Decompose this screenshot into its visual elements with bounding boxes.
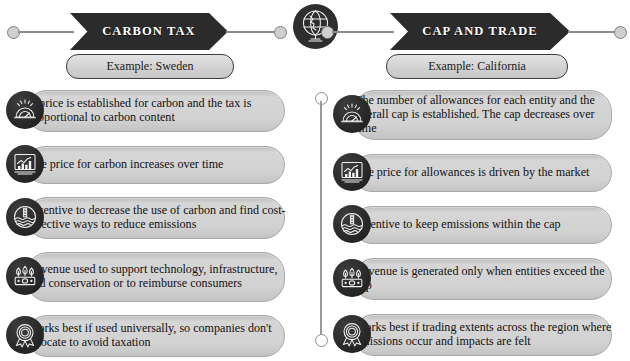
table-row[interactable]: The number of allowances for each entity… <box>327 88 630 140</box>
row-text: Revenue used to support technology, infr… <box>28 262 289 290</box>
banner-cap-and-trade[interactable]: CAP AND TRADE <box>390 13 570 50</box>
table-row[interactable]: A price is established for carbon and th… <box>0 88 303 132</box>
row-text: The price for carbon increases over time <box>28 157 289 171</box>
row-text: Works best if used universally, so compa… <box>28 321 289 349</box>
thermometer-water-icon <box>333 205 371 243</box>
example-label: Example: California <box>428 59 526 74</box>
award-ribbon-icon <box>6 316 44 354</box>
example-pill-sweden[interactable]: Example: Sweden <box>66 54 234 79</box>
example-pill-california[interactable]: Example: California <box>386 54 568 79</box>
connector-line-left-end <box>226 31 276 33</box>
gauge-icon <box>333 95 371 133</box>
table-row[interactable]: Works best if used universally, so compa… <box>0 313 303 357</box>
example-label: Example: Sweden <box>107 59 194 74</box>
connector-dot-left-end <box>274 26 287 39</box>
gauge-icon <box>6 91 44 129</box>
connector-line-right-end <box>568 31 616 33</box>
row-list-carbon-tax: A price is established for carbon and th… <box>0 88 303 361</box>
award-ribbon-icon <box>333 315 371 353</box>
money-plant-icon <box>6 257 44 295</box>
bar-chart-icon <box>6 145 44 183</box>
row-text: Revenue is generated only when entities … <box>355 264 616 292</box>
table-row[interactable]: Incentive to decrease the use of carbon … <box>0 195 303 239</box>
thermometer-water-icon <box>6 198 44 236</box>
connector-line-left <box>18 31 74 33</box>
row-text: The number of allowances for each entity… <box>355 93 616 136</box>
table-row[interactable]: The price for carbon increases over time <box>0 144 303 184</box>
row-text: Incentive to keep emissions within the c… <box>355 217 616 231</box>
table-row[interactable]: Revenue used to support technology, infr… <box>0 250 303 302</box>
row-text: Incentive to decrease the use of carbon … <box>28 203 289 231</box>
table-row[interactable]: The price for allowances is driven by th… <box>327 152 630 192</box>
table-row[interactable]: Incentive to keep emissions within the c… <box>327 204 630 244</box>
center-divider <box>320 101 322 339</box>
row-text: Works best if trading extents across the… <box>355 320 616 348</box>
table-row[interactable]: Works best if trading extents across the… <box>327 312 630 356</box>
row-text: A price is established for carbon and th… <box>28 96 289 124</box>
banner-carbon-tax[interactable]: CARBON TAX <box>70 13 228 50</box>
banner-label: CARBON TAX <box>102 24 196 39</box>
connector-dot-right-end <box>614 26 627 39</box>
connector-line-right <box>332 31 394 33</box>
row-list-cap-and-trade: The number of allowances for each entity… <box>327 88 630 361</box>
banner-label: CAP AND TRADE <box>422 24 537 39</box>
row-text: The price for allowances is driven by th… <box>355 165 616 179</box>
column-header-cap-and-trade: CAP AND TRADE Example: California <box>327 0 630 88</box>
table-row[interactable]: Revenue is generated only when entities … <box>327 256 630 300</box>
money-plant-icon <box>333 259 371 297</box>
column-header-carbon-tax: CARBON TAX Example: Sweden <box>0 0 303 88</box>
bar-chart-icon <box>333 153 371 191</box>
